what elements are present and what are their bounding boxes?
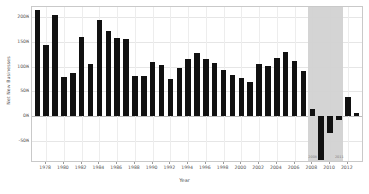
- x-tick-label: 2010: [323, 165, 335, 170]
- x-tick-mark: [294, 162, 295, 164]
- x-tick-label: 2002: [252, 165, 264, 170]
- x-tick-label: 2008: [305, 165, 317, 170]
- bar: [194, 53, 200, 117]
- bar: [114, 38, 120, 116]
- x-tick-mark: [116, 162, 117, 164]
- bar: [159, 65, 165, 117]
- x-tick-mark: [187, 162, 188, 164]
- y-tick-mark: [27, 16, 29, 17]
- y-tick-label: -50K: [0, 138, 29, 143]
- bar: [123, 39, 129, 116]
- bar: [345, 97, 351, 116]
- bar: [221, 70, 227, 117]
- x-tick-label: 1990: [146, 165, 158, 170]
- x-tick-label: 1992: [164, 165, 176, 170]
- bar: [336, 116, 342, 120]
- x-tick-label: 1998: [217, 165, 229, 170]
- bar: [141, 76, 147, 117]
- bar: [274, 58, 280, 117]
- bar: [97, 20, 103, 116]
- bar: [247, 82, 253, 116]
- bar: [283, 52, 289, 117]
- bar: [43, 45, 49, 116]
- bar: [52, 15, 58, 116]
- bar: [203, 59, 209, 116]
- x-tick-label: 1994: [181, 165, 193, 170]
- x-tick-mark: [63, 162, 64, 164]
- x-tick-mark: [205, 162, 206, 164]
- x-tick-label: 1980: [57, 165, 69, 170]
- x-tick-label: 2004: [270, 165, 282, 170]
- band-annotation-label: 2008: [308, 155, 317, 159]
- bar: [88, 64, 94, 116]
- x-tick-mark: [329, 162, 330, 164]
- bar: [310, 109, 316, 116]
- y-tick-label: 100K: [0, 63, 29, 68]
- x-tick-mark: [152, 162, 153, 164]
- bar: [239, 78, 245, 116]
- y-tick-mark: [27, 140, 29, 141]
- bar: [230, 75, 236, 116]
- x-tick-label: 2000: [234, 165, 246, 170]
- x-tick-mark: [134, 162, 135, 164]
- y-tick-mark: [27, 66, 29, 67]
- x-tick-mark: [258, 162, 259, 164]
- bar: [61, 77, 67, 117]
- bar: [79, 37, 85, 116]
- bar: [168, 79, 174, 116]
- x-axis-title: Year: [0, 177, 369, 183]
- bar: [256, 64, 262, 117]
- x-tick-label: 2012: [341, 165, 353, 170]
- chart-figure: Net New Businesses 200K150K100K50K0K-50K…: [0, 0, 369, 194]
- x-tick-mark: [45, 162, 46, 164]
- bar: [327, 116, 333, 132]
- y-tick-mark: [27, 115, 29, 116]
- x-tick-mark: [81, 162, 82, 164]
- y-axis-tick-labels: 200K150K100K50K0K-50K: [0, 6, 29, 162]
- bar: [106, 31, 112, 116]
- x-tick-label: 1996: [199, 165, 211, 170]
- bar: [354, 113, 360, 116]
- y-tick-label: 150K: [0, 38, 29, 43]
- x-tick-label: 2006: [288, 165, 300, 170]
- x-tick-mark: [311, 162, 312, 164]
- x-tick-mark: [347, 162, 348, 164]
- bar: [177, 68, 183, 117]
- band-annotation-label: 2011: [335, 155, 344, 159]
- x-tick-label: 1982: [75, 165, 87, 170]
- bar: [150, 62, 156, 117]
- bar: [265, 66, 271, 116]
- x-tick-mark: [223, 162, 224, 164]
- y-tick-mark: [27, 90, 29, 91]
- bar: [301, 71, 307, 117]
- x-tick-mark: [98, 162, 99, 164]
- y-tick-label: 200K: [0, 13, 29, 18]
- x-tick-label: 1978: [39, 165, 51, 170]
- x-tick-mark: [240, 162, 241, 164]
- y-tick-label: 0K: [0, 113, 29, 118]
- x-axis-title-text: Year: [179, 177, 190, 183]
- recession-shaded-band: [308, 7, 343, 161]
- bar: [132, 76, 138, 117]
- x-tick-mark: [169, 162, 170, 164]
- y-tick-label: 50K: [0, 88, 29, 93]
- x-tick-label: 1986: [110, 165, 122, 170]
- bar: [35, 10, 41, 116]
- x-tick-label: 1988: [128, 165, 140, 170]
- bar: [318, 116, 324, 160]
- y-tick-mark: [27, 41, 29, 42]
- bar: [185, 59, 191, 116]
- gridline-x-2012: [348, 7, 349, 161]
- bar: [212, 63, 218, 117]
- plot-area: 20082011: [31, 6, 363, 162]
- bar: [70, 73, 76, 117]
- x-tick-label: 1984: [93, 165, 105, 170]
- bar: [292, 61, 298, 116]
- x-tick-mark: [276, 162, 277, 164]
